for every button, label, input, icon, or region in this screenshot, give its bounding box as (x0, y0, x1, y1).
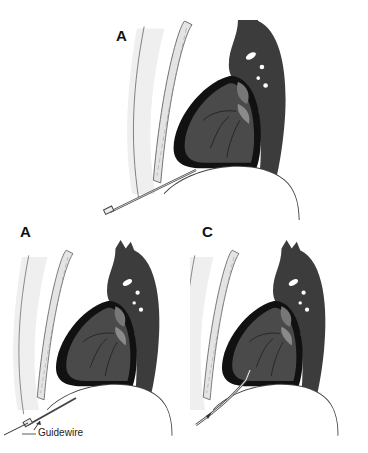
panel-label-b: A (20, 223, 31, 240)
arrow-icon (36, 421, 41, 425)
heart-diagram-c (190, 220, 368, 453)
panel-b: A Guidewire (0, 220, 190, 453)
panel-label-c: C (202, 223, 213, 240)
heart-diagram-a (100, 20, 320, 220)
guidewire-icon (4, 423, 28, 435)
guidewire-label: Guidewire (38, 427, 83, 438)
panel-a: A (100, 20, 320, 220)
heart-diagram-b (0, 220, 190, 453)
panel-c: C (190, 220, 368, 453)
panel-label-a: A (116, 27, 127, 44)
